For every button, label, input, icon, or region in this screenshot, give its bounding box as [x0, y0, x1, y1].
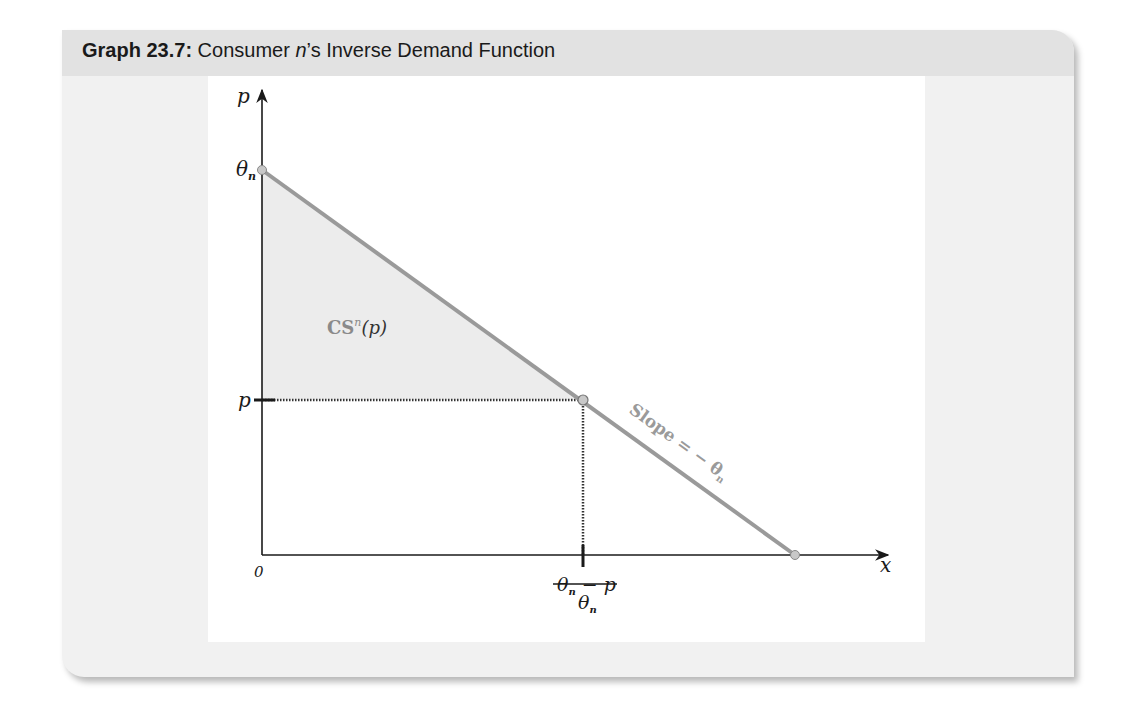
x-axis-label: x	[880, 553, 891, 577]
y-intercept-label: θn	[236, 157, 256, 183]
y-axis-label: p	[237, 84, 250, 108]
demand-diagram: p x 0 θn p θn − p θn CSn(p) Slope = − θn	[0, 0, 1141, 719]
x-intercept-point	[791, 551, 800, 560]
p-level-label: p	[238, 388, 251, 412]
equilibrium-point	[578, 395, 588, 405]
x-tick-label: θn − p θn	[553, 573, 617, 615]
y-intercept-point	[258, 166, 267, 175]
origin-label: 0	[254, 563, 264, 581]
